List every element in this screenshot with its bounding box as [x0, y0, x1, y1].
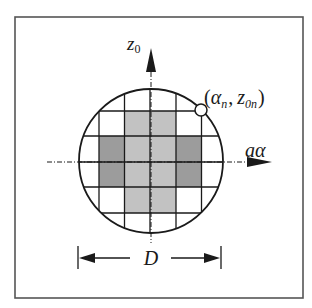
aperture-grid-diagram: z0 aα (αn,z0n) D [0, 0, 312, 308]
horizontal-axis-label: aα [245, 139, 266, 161]
diameter-label: D [143, 247, 159, 269]
vertical-axis-arrow-icon [146, 48, 156, 72]
vertical-axis-label: z0 [126, 33, 140, 56]
sample-point-label: (αn,z0n) [204, 86, 265, 111]
diameter-dimension: D [78, 246, 221, 269]
dimension-left-arrow-icon [79, 253, 95, 263]
dimension-right-arrow-icon [204, 253, 220, 263]
